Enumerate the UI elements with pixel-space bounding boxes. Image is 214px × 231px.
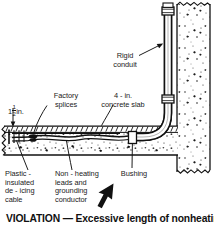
label-concrete-slab: 4 - in. concrete slab — [90, 92, 156, 109]
dimension-whole: 1 — [8, 106, 12, 115]
label-factory-splices: Factory splices — [38, 92, 94, 109]
rigid-conduit — [136, 9, 172, 141]
bushing — [129, 132, 137, 144]
label-bushing: Bushing — [117, 170, 151, 179]
label-nonheating-leads: Non - heating leads and grounding conduc… — [55, 170, 117, 204]
label-deicing-cable: Plastic - insulated de - icing cable — [5, 170, 57, 204]
label-rigid-conduit: Rigid conduit — [108, 52, 142, 69]
conduit-coupling-top — [162, 3, 174, 15]
label-dimension: 112in. — [4, 95, 24, 117]
conduit-coupling-mid — [162, 95, 174, 103]
dimension-unit: in. — [16, 106, 24, 115]
concrete-wall — [177, 2, 210, 173]
violation-caption: VIOLATION — Excessive length of nonheati… — [6, 213, 214, 224]
